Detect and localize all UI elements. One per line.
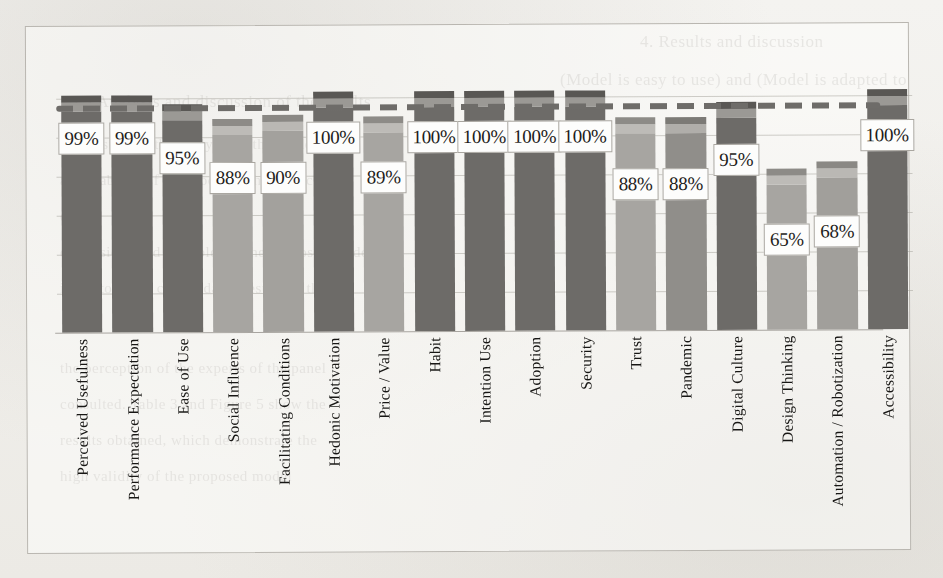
- bar-value-label: 65%: [764, 224, 810, 256]
- bar-tip-marker: [666, 117, 706, 124]
- category-label: Ease of Use: [174, 338, 192, 414]
- category-label: Design Thinking: [778, 336, 796, 443]
- bar-column: [212, 86, 253, 332]
- category-label: Perceived Usefulness: [73, 339, 92, 476]
- category-label: Automation / Robotization: [829, 335, 848, 506]
- category-axis-labels: Perceived UsefulnessPerformance Expectat…: [57, 335, 914, 569]
- bar-column: [363, 85, 404, 331]
- bar-body: [767, 184, 808, 330]
- bar-value-label: 100%: [860, 119, 914, 151]
- bar-value-label: 99%: [109, 122, 155, 154]
- bar-body: [666, 133, 707, 330]
- bar-tip-marker: [112, 95, 152, 102]
- bar-value-label: 90%: [260, 162, 306, 194]
- bar-tip-marker: [313, 92, 353, 99]
- bar-column: [665, 84, 706, 330]
- bar-value-label: 88%: [613, 168, 659, 200]
- bar-value-label: 100%: [558, 120, 612, 152]
- bar-tip-marker: [263, 114, 303, 121]
- category-label: Price / Value: [375, 337, 393, 419]
- bar-cap-segment: [162, 111, 202, 120]
- bar-column: [766, 84, 807, 330]
- bar-tip-marker: [817, 161, 857, 168]
- category-label: Intention Use: [476, 337, 494, 424]
- category-label: Digital Culture: [728, 336, 746, 432]
- bar-value-label: 99%: [58, 123, 104, 155]
- bar-value-label: 95%: [713, 144, 759, 176]
- bar-body: [817, 177, 858, 329]
- category-label: Adoption: [527, 337, 545, 397]
- bar-cap-segment: [666, 124, 706, 133]
- category-label: Accessibility: [879, 335, 897, 419]
- category-label: Security: [577, 336, 595, 389]
- bar-cap-segment: [363, 123, 403, 132]
- bar-body: [615, 133, 656, 330]
- bar-tip-marker: [464, 91, 504, 98]
- bar-tip-marker: [514, 91, 554, 98]
- bar-tip-marker: [867, 89, 907, 96]
- chart-frame: Perceived UsefulnessPerformance Expectat…: [25, 22, 911, 554]
- category-label: Performance Expectation: [124, 338, 143, 500]
- bar-value-label: 100%: [457, 121, 511, 153]
- bar-value-label: 100%: [508, 121, 562, 153]
- bar-column: [615, 84, 656, 330]
- bar-value-label: 95%: [159, 142, 205, 174]
- bar-tip-marker: [565, 91, 605, 98]
- bar-value-label: 68%: [814, 215, 860, 247]
- category-label: Facilitating Conditions: [275, 338, 294, 485]
- bar-cap-segment: [615, 124, 655, 133]
- bar-tip-marker: [61, 95, 101, 102]
- bar-cap-segment: [212, 126, 252, 135]
- category-label: Habit: [426, 337, 444, 373]
- bar-column: [716, 84, 757, 330]
- bar-value-label: 89%: [361, 161, 407, 193]
- bar-tip-marker: [766, 168, 806, 175]
- bar-value-label: 100%: [407, 121, 461, 153]
- bar-cap-segment: [817, 168, 857, 177]
- bar-tip-marker: [615, 117, 655, 124]
- bar-value-label: 88%: [210, 162, 256, 194]
- bar-cap-segment: [263, 121, 303, 130]
- bar-body: [263, 130, 304, 331]
- bar-column: [162, 86, 203, 332]
- bar-column: [816, 83, 857, 329]
- bar-column: [263, 86, 304, 332]
- bar-value-label: 100%: [306, 121, 360, 153]
- bar-tip-marker: [414, 91, 454, 98]
- bar-tip-marker: [212, 119, 252, 126]
- category-label: Hedonic Motivation: [325, 338, 344, 467]
- bar-tip-marker: [363, 116, 403, 123]
- bar-value-label: 88%: [663, 168, 709, 200]
- bar-cap-segment: [766, 175, 806, 184]
- category-label: Social Influence: [224, 338, 242, 442]
- bar-cap-segment: [716, 108, 756, 117]
- category-label: Trust: [627, 336, 645, 369]
- category-label: Pandemic: [678, 336, 696, 399]
